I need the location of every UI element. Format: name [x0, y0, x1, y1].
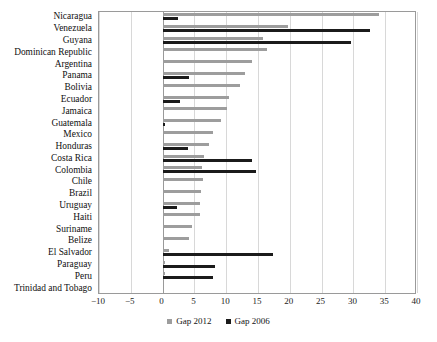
bar-row	[99, 212, 415, 224]
category-label: El Salvador	[48, 247, 92, 257]
bar-gap-2012	[163, 237, 190, 240]
bar-row	[99, 189, 415, 201]
bar-row	[99, 130, 415, 142]
bar-gap-2006	[163, 17, 179, 20]
category-label: Guyana	[63, 35, 92, 45]
legend-item: Gap 2012	[167, 316, 211, 326]
bar-row	[99, 24, 415, 36]
chart-legend: Gap 2012Gap 2006	[0, 316, 437, 326]
category-label: Mexico	[63, 129, 92, 139]
category-label: Trinidad and Tobago	[14, 283, 92, 293]
bar-gap-2012	[163, 261, 166, 264]
x-tick-label: −5	[125, 296, 135, 306]
bar-gap-2006	[163, 41, 352, 44]
bar-gap-2006	[163, 265, 216, 268]
plot-area	[98, 11, 416, 294]
bar-gap-2012	[163, 166, 202, 169]
bar-row	[99, 71, 415, 83]
bar-row	[99, 283, 415, 295]
bar-gap-2012	[163, 60, 252, 63]
category-label: Uruguay	[59, 200, 92, 210]
bar-gap-2012	[163, 178, 203, 181]
category-label: Venezuela	[53, 23, 92, 33]
bar-gap-2012	[163, 202, 201, 205]
bar-row	[99, 224, 415, 236]
bar-gap-2006	[163, 76, 189, 79]
category-label: Jamaica	[62, 106, 92, 116]
x-tick-label: 10	[221, 296, 230, 306]
x-tick-label: 40	[412, 296, 421, 306]
bar-gap-2006	[163, 123, 165, 126]
bar-gap-2012	[163, 143, 209, 146]
bar-row	[99, 201, 415, 213]
bar-gap-2012	[163, 25, 288, 28]
category-label: Panama	[62, 70, 92, 80]
x-tick-label: 0	[159, 296, 164, 306]
category-label: Ecuador	[61, 94, 92, 104]
category-axis-labels: NicaraguaVenezuelaGuyanaDominican Republ…	[0, 11, 95, 294]
bar-gap-2006	[163, 29, 370, 32]
bar-gap-2006	[163, 159, 252, 162]
x-tick-label: 5	[191, 296, 196, 306]
bar-gap-2012	[163, 72, 246, 75]
bar-gap-2012	[163, 213, 201, 216]
bar-row	[99, 106, 415, 118]
bar-gap-2012	[163, 37, 263, 40]
bar-gap-2012	[163, 13, 379, 16]
x-tick-label: 35	[380, 296, 389, 306]
bar-gap-2012	[163, 84, 240, 87]
category-label: Argentina	[55, 59, 92, 69]
x-tick-label: −10	[91, 296, 105, 306]
category-label: Guatemala	[51, 118, 92, 128]
bar-gap-2012	[163, 107, 228, 110]
category-label: Honduras	[56, 141, 92, 151]
x-tick-label: 30	[348, 296, 357, 306]
category-label: Peru	[75, 271, 92, 281]
bar-gap-2006	[163, 276, 214, 279]
bar-row	[99, 12, 415, 24]
bar-row	[99, 154, 415, 166]
bar-gap-2012	[163, 155, 204, 158]
bar-gap-2012	[163, 190, 201, 193]
bar-gap-2006	[163, 253, 274, 256]
legend-label: Gap 2012	[176, 316, 211, 326]
x-tick-label: 15	[253, 296, 262, 306]
bar-gap-2012	[163, 131, 214, 134]
bar-gap-2012	[163, 225, 192, 228]
legend-item: Gap 2006	[226, 316, 270, 326]
category-label: Haiti	[73, 212, 92, 222]
bar-row	[99, 118, 415, 130]
bar-row	[99, 236, 415, 248]
category-label: Paraguay	[57, 259, 92, 269]
x-tick-label: 25	[316, 296, 325, 306]
bar-row	[99, 260, 415, 272]
bar-row	[99, 248, 415, 260]
category-label: Nicaragua	[53, 11, 92, 21]
bar-rows	[99, 12, 415, 293]
bar-row	[99, 95, 415, 107]
bar-gap-2006	[163, 147, 188, 150]
gridline	[417, 12, 418, 293]
bar-gap-2012	[163, 119, 222, 122]
bar-row	[99, 36, 415, 48]
x-tick-label: 20	[284, 296, 293, 306]
legend-swatch-icon	[167, 319, 172, 324]
category-label: Suriname	[56, 224, 92, 234]
x-axis-ticks: −10−50510152025303540	[98, 296, 416, 310]
bar-gap-2012	[163, 96, 229, 99]
legend-label: Gap 2006	[235, 316, 270, 326]
bar-row	[99, 83, 415, 95]
bar-row	[99, 165, 415, 177]
bar-gap-2012	[163, 272, 165, 275]
bar-gap-2006	[163, 206, 177, 209]
category-label: Dominican Republic	[14, 47, 92, 57]
bar-gap-2012	[163, 249, 169, 252]
bar-row	[99, 142, 415, 154]
category-label: Chile	[72, 176, 92, 186]
category-label: Brazil	[69, 188, 92, 198]
bar-row	[99, 177, 415, 189]
category-label: Bolivia	[64, 82, 92, 92]
bar-gap-2006	[163, 170, 256, 173]
bar-row	[99, 59, 415, 71]
legend-swatch-icon	[226, 319, 231, 324]
